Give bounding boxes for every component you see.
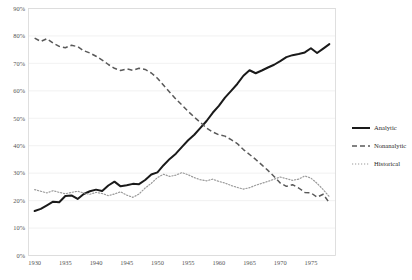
y-axis-tick-label: 50% bbox=[13, 115, 25, 122]
y-axis-tick-label: 10% bbox=[13, 224, 25, 231]
x-axis-tick-label: 1945 bbox=[120, 259, 133, 266]
legend-label-nonanalytic: Nonanalytic bbox=[374, 142, 406, 149]
x-axis-tick-label: 1970 bbox=[274, 259, 287, 266]
x-axis-tick-label: 1975 bbox=[305, 259, 318, 266]
x-axis-tick-label: 1930 bbox=[28, 259, 41, 266]
y-axis-tick-label: 90% bbox=[13, 5, 25, 12]
y-axis-tick-label: 20% bbox=[13, 197, 25, 204]
y-axis-tick-label: 80% bbox=[13, 32, 25, 39]
y-axis-tick-label: 60% bbox=[13, 87, 25, 94]
y-axis-tick-label: 40% bbox=[13, 142, 25, 149]
y-axis-tick-labels: 0%10%20%30%40%50%60%70%80%90% bbox=[13, 5, 25, 259]
x-axis-tick-label: 1965 bbox=[243, 259, 256, 266]
y-axis-tick-label: 70% bbox=[13, 60, 25, 67]
x-axis-tick-label: 1940 bbox=[90, 259, 103, 266]
x-axis-tick-labels: 1930193519401945195019551960196519701975 bbox=[28, 259, 317, 266]
legend-label-analytic: Analytic bbox=[374, 124, 397, 131]
chart-legend: AnalyticNonanalyticHistorical bbox=[352, 124, 406, 167]
line-chart: 0%10%20%30%40%50%60%70%80%90% 1930193519… bbox=[0, 0, 412, 280]
y-axis-tick-label: 30% bbox=[13, 169, 25, 176]
chart-svg: 0%10%20%30%40%50%60%70%80%90% 1930193519… bbox=[0, 0, 412, 280]
y-axis-tick-label: 0% bbox=[16, 252, 25, 259]
x-axis-tick-label: 1960 bbox=[212, 259, 225, 266]
series-layer bbox=[35, 38, 330, 211]
series-line-nonanalytic bbox=[35, 38, 330, 203]
x-axis-tick-label: 1950 bbox=[151, 259, 164, 266]
x-axis-tick-label: 1955 bbox=[182, 259, 195, 266]
legend-label-historical: Historical bbox=[374, 160, 400, 167]
x-axis-tick-label: 1935 bbox=[59, 259, 72, 266]
